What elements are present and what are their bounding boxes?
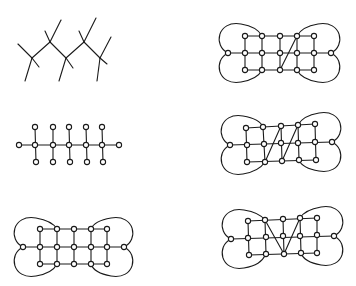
vertex-node <box>331 233 336 238</box>
vertex-node <box>67 159 72 164</box>
edge <box>18 44 32 58</box>
vertex-node <box>242 33 247 38</box>
vertex-node <box>50 159 55 164</box>
vertex-node <box>99 142 104 147</box>
loop-edge <box>91 218 133 247</box>
vertex-node <box>20 244 25 249</box>
vertex-node <box>294 67 299 72</box>
loop-edge <box>221 145 265 174</box>
vertex-node <box>71 244 76 249</box>
edge <box>45 31 50 42</box>
vertex-node <box>50 124 55 129</box>
vertex-node <box>37 226 42 231</box>
vertex-node <box>243 125 248 130</box>
vertex-node <box>278 140 283 145</box>
vertex-node <box>259 33 264 38</box>
vertex-node <box>295 140 300 145</box>
vertex-node <box>104 244 109 249</box>
loop-edge <box>222 239 266 268</box>
vertex-node <box>88 226 93 231</box>
vertex-node <box>314 232 319 237</box>
vertex-node <box>242 50 247 55</box>
vertex-node <box>16 142 21 147</box>
vertex-node <box>84 159 89 164</box>
panel-tree <box>18 18 111 81</box>
vertex-node <box>259 50 264 55</box>
edge <box>59 58 66 81</box>
edge <box>84 18 96 42</box>
loop-edge <box>222 210 265 239</box>
vertex-node <box>281 251 286 256</box>
vertex-node <box>311 50 316 55</box>
vertex-node <box>298 250 303 255</box>
vertex-node <box>329 139 334 144</box>
vertex-node <box>296 157 301 162</box>
vertex-node <box>37 261 42 266</box>
vertex-node <box>277 67 282 72</box>
loop-edge <box>297 53 340 82</box>
vertex-node <box>71 226 76 231</box>
vertex-node <box>294 50 299 55</box>
edge <box>66 58 73 68</box>
panel-grid-one-diagonal <box>219 24 340 83</box>
vertex-node <box>244 142 249 147</box>
edge <box>50 20 61 42</box>
vertex-node <box>246 252 251 257</box>
vertex-node <box>54 244 59 249</box>
loop-edge <box>14 218 57 247</box>
loop-edge <box>91 247 133 276</box>
loop-edge <box>297 24 340 53</box>
vertex-node <box>83 142 88 147</box>
edge <box>97 58 100 81</box>
loop-edge <box>299 142 341 171</box>
vertex-node <box>311 33 316 38</box>
loop-edge <box>301 236 343 265</box>
vertex-node <box>280 216 285 221</box>
edge <box>50 42 66 58</box>
edge <box>66 42 84 58</box>
vertex-node <box>228 236 233 241</box>
vertex-node <box>259 67 264 72</box>
vertex-node <box>295 122 300 127</box>
vertex-node <box>245 235 250 240</box>
edge <box>32 58 39 67</box>
vertex-node <box>297 233 302 238</box>
vertex-node <box>32 124 37 129</box>
panel-grid-plain <box>14 218 133 277</box>
vertex-node <box>83 124 88 129</box>
vertex-node <box>313 157 318 162</box>
vertex-node <box>277 50 282 55</box>
loop-edge <box>14 247 57 276</box>
edge <box>79 31 84 42</box>
loop-edge <box>298 113 341 142</box>
vertex-node <box>242 67 247 72</box>
vertex-node <box>312 121 317 126</box>
vertex-node <box>261 141 266 146</box>
vertex-node <box>66 124 71 129</box>
vertex-node <box>263 251 268 256</box>
vertex-node <box>121 244 126 249</box>
panel-grid-v-shape <box>222 207 343 269</box>
vertex-node <box>312 139 317 144</box>
edge <box>84 42 100 58</box>
vertex-node <box>244 159 249 164</box>
vertex-node <box>104 261 109 266</box>
vertex-node <box>50 142 55 147</box>
vertex-node <box>263 234 268 239</box>
vertex-node <box>54 261 59 266</box>
loop-edge <box>221 116 263 145</box>
vertex-node <box>314 215 319 220</box>
vertex-node <box>33 159 38 164</box>
vertex-node <box>37 244 42 249</box>
vertex-node <box>66 142 71 147</box>
vertex-node <box>277 33 282 38</box>
vertex-node <box>297 215 302 220</box>
vertex-node <box>88 244 93 249</box>
vertex-node <box>227 142 232 147</box>
loop-edge <box>219 53 262 82</box>
panel-grid-two-diagonals <box>221 113 341 175</box>
vertex-node <box>294 33 299 38</box>
vertex-node <box>116 142 121 147</box>
graph-figure <box>0 0 356 286</box>
vertex-node <box>311 67 316 72</box>
